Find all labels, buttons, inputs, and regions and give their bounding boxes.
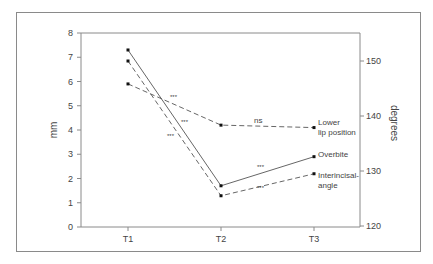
left-axis-title: mm [48, 122, 59, 139]
data-point [127, 82, 130, 85]
data-point [220, 124, 223, 127]
left-tick-label: 8 [68, 28, 73, 38]
data-point [220, 184, 223, 187]
right-tick-label: 120 [366, 221, 381, 231]
data-point [127, 60, 130, 63]
sig-interincisal-t1t2: *** [167, 133, 175, 139]
label-overbite: Overbite [318, 150, 349, 159]
left-tick-label: 3 [68, 149, 73, 159]
label-lower-lip-2: lip position [318, 128, 356, 137]
x-tick-label: T3 [309, 234, 320, 244]
data-point [127, 48, 130, 51]
left-tick-label: 1 [68, 198, 73, 208]
right-axis-title: degrees [389, 105, 400, 141]
series-line-overbite [128, 50, 314, 186]
data-point [313, 126, 316, 129]
data-point [313, 172, 316, 175]
x-tick-label: T1 [123, 234, 134, 244]
left-tick-label: 5 [68, 101, 73, 111]
data-point [220, 194, 223, 197]
x-axis-ticks: T1T2T3 [123, 227, 320, 244]
data-point [313, 155, 316, 158]
label-lower-lip: Lower [318, 118, 340, 127]
left-tick-label: 4 [68, 125, 73, 135]
sig-overbite-t1t2: *** [181, 119, 189, 125]
ns-lowerlip-t2t3: ns [254, 116, 262, 125]
left-tick-label: 0 [68, 222, 73, 232]
sig-overbite-t2t3: *** [257, 164, 265, 170]
left-axis-ticks: 012345678 [68, 28, 81, 232]
sig-lowerlip-t1t2: *** [170, 94, 178, 100]
label-interincisal: Interincisal- [318, 171, 359, 180]
sig-interincisal-t2t3: *** [257, 185, 265, 191]
right-tick-label: 150 [366, 56, 381, 66]
left-tick-label: 7 [68, 52, 73, 62]
x-tick-label: T2 [216, 234, 227, 244]
right-axis-ticks: 120130140150 [360, 56, 381, 231]
right-tick-label: 130 [366, 166, 381, 176]
series-line-interincisal-angle [128, 61, 314, 196]
series-layer [127, 48, 316, 197]
left-tick-label: 6 [68, 77, 73, 87]
line-chart: 012345678 120130140150 T1T2T3 mm degrees… [0, 0, 433, 264]
label-interincisal-2: angle [318, 181, 338, 190]
left-tick-label: 2 [68, 174, 73, 184]
right-tick-label: 140 [366, 111, 381, 121]
